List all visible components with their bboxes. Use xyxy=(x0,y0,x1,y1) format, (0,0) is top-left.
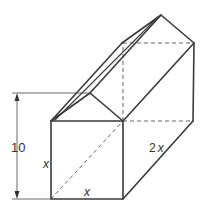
label-depth-variable: x xyxy=(157,141,165,155)
label-depth-2x: 2x xyxy=(149,141,165,155)
front-roof-triangle xyxy=(51,93,123,121)
roof-left-eave-inner xyxy=(55,17,158,120)
label-depth-coefficient: 2 xyxy=(149,141,156,155)
label-front-side-x: x xyxy=(42,157,50,171)
back-right-vertical xyxy=(193,43,194,121)
dimension-arrow-down xyxy=(15,191,20,199)
diagram-container: 10 x x 2x xyxy=(0,0,213,215)
roof-ridge xyxy=(90,15,161,93)
dimension-arrow-up xyxy=(15,93,20,101)
label-front-bottom-x: x xyxy=(83,185,91,199)
roof-right-eave xyxy=(123,43,194,121)
roof-left-eave xyxy=(51,43,122,121)
bottom-right-depth-edge xyxy=(123,121,193,199)
house-prism-diagram: 10 x x 2x xyxy=(0,0,213,215)
label-height-10: 10 xyxy=(11,140,25,155)
